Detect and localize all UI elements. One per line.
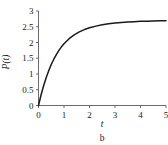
y-tick-label: 2.5	[22, 22, 34, 32]
y-axis-tick-labels: 00.511.522.53	[22, 6, 34, 111]
figure-caption: b	[100, 133, 105, 143]
y-tick-label: 1	[29, 69, 34, 79]
chart-plot: 00.511.522.53 012345 t P(t) b	[0, 0, 168, 145]
y-tick-label: 1.5	[22, 53, 34, 63]
y-tick-label: 2	[29, 38, 34, 48]
x-tick-label: 4	[138, 110, 143, 120]
y-tick-label: 0.5	[22, 85, 34, 95]
y-axis-title: P(t)	[1, 55, 12, 71]
figure-panel: 00.511.522.53 012345 t P(t) b	[0, 0, 168, 145]
y-tick-label: 0	[29, 101, 34, 111]
x-tick-label: 0	[36, 110, 41, 120]
x-tick-label: 1	[62, 110, 67, 120]
x-tick-label: 5	[164, 110, 168, 120]
x-tick-label: 3	[113, 110, 118, 120]
y-tick-label: 3	[29, 6, 34, 16]
x-axis-tick-labels: 012345	[36, 110, 168, 120]
x-axis-title: t	[101, 119, 104, 129]
data-series-curve	[39, 21, 167, 106]
x-tick-label: 2	[87, 110, 92, 120]
